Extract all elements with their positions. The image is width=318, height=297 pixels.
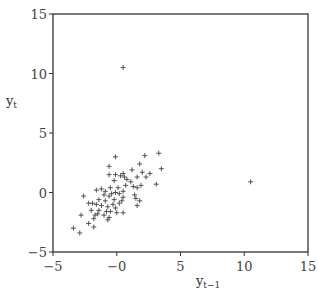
data-point <box>118 173 123 178</box>
data-point <box>132 192 137 197</box>
data-point <box>142 153 147 158</box>
data-point <box>107 172 112 177</box>
x-tick-label: 15 <box>300 259 317 274</box>
data-points <box>71 65 253 235</box>
x-tick-label: 10 <box>236 259 253 274</box>
data-point <box>117 191 122 196</box>
axis-ticks: −5−051015−5051015 <box>28 7 316 274</box>
data-point <box>113 205 118 210</box>
data-point <box>99 186 104 191</box>
data-point <box>121 189 126 194</box>
y-tick-label: 0 <box>39 186 47 201</box>
data-point <box>105 217 110 222</box>
data-point <box>122 175 127 180</box>
data-point <box>121 210 126 215</box>
data-point <box>91 216 96 221</box>
x-tick-label: −0 <box>107 259 126 274</box>
data-point <box>130 167 135 172</box>
plot-frame <box>53 14 308 252</box>
data-point <box>156 151 161 156</box>
data-point <box>135 185 140 190</box>
data-point <box>79 213 84 218</box>
data-point <box>77 230 82 235</box>
data-point <box>121 171 126 176</box>
data-point <box>131 184 136 189</box>
data-point <box>86 221 91 226</box>
y-tick-label: 15 <box>30 7 47 22</box>
x-axis-label: yt−1 <box>195 273 220 290</box>
data-point <box>112 178 117 183</box>
data-point <box>102 213 107 218</box>
data-point <box>147 171 152 176</box>
data-point <box>138 183 143 188</box>
data-point <box>123 183 128 188</box>
data-point <box>94 188 99 193</box>
data-point <box>107 194 112 199</box>
data-point <box>103 189 108 194</box>
scatter-plot: −5−051015−5051015 yt yt−1 <box>0 0 318 297</box>
data-point <box>94 202 99 207</box>
data-point <box>248 179 253 184</box>
data-point <box>121 195 126 200</box>
data-point <box>159 166 164 171</box>
data-point <box>117 201 122 206</box>
data-point <box>112 197 117 202</box>
y-axis-label: yt <box>5 93 17 110</box>
data-point <box>114 210 119 215</box>
data-point <box>71 226 76 231</box>
data-point <box>96 208 101 213</box>
data-point <box>103 198 108 203</box>
data-point <box>119 198 124 203</box>
data-point <box>89 208 94 213</box>
data-point <box>133 196 138 201</box>
x-tick-label: 5 <box>176 259 184 274</box>
data-point <box>102 192 107 197</box>
y-tick-label: 5 <box>39 126 47 141</box>
data-point <box>105 204 110 209</box>
data-point <box>124 177 129 182</box>
data-point <box>107 215 112 220</box>
data-point <box>107 164 112 169</box>
data-point <box>137 198 142 203</box>
data-point <box>110 202 115 207</box>
data-point <box>154 182 159 187</box>
data-point <box>90 201 95 206</box>
data-point <box>108 185 113 190</box>
data-point <box>113 172 118 177</box>
data-point <box>96 197 101 202</box>
y-tick-label: 10 <box>30 67 47 82</box>
data-point <box>128 179 133 184</box>
data-point <box>135 203 140 208</box>
data-point <box>140 170 145 175</box>
data-point <box>108 209 113 214</box>
data-point <box>91 225 96 230</box>
data-point <box>144 175 149 180</box>
data-point <box>135 175 140 180</box>
data-point <box>99 203 104 208</box>
data-point <box>113 190 118 195</box>
data-point <box>93 213 98 218</box>
data-point <box>121 65 126 70</box>
y-tick-label: −5 <box>28 245 47 260</box>
data-point <box>116 185 121 190</box>
data-point <box>113 154 118 159</box>
data-point <box>137 161 142 166</box>
x-tick-label: −5 <box>43 259 62 274</box>
data-point <box>95 211 100 216</box>
data-point <box>109 191 114 196</box>
data-point <box>81 194 86 199</box>
